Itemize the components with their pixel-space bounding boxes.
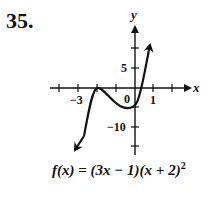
x-axis-label: x: [192, 80, 200, 95]
tick-label-0: 0: [124, 92, 130, 106]
y-axis-label: y: [129, 7, 137, 22]
tick-label-5: 5: [121, 61, 127, 75]
tick-label-neg10: −10: [107, 120, 126, 134]
tick-label-neg3: −3: [70, 93, 83, 107]
tick-label-1: 1: [150, 93, 156, 107]
function-equation: f(x) = (3x − 1)(x + 2)2: [52, 160, 186, 179]
